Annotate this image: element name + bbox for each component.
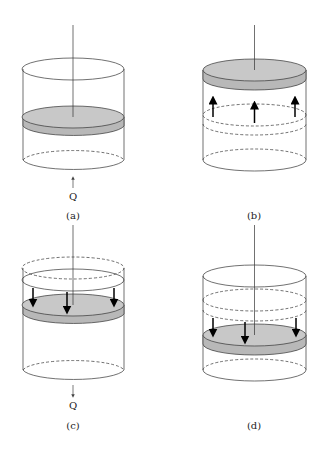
heat-label-c: Q bbox=[69, 400, 77, 411]
piston-cylinder-diagram bbox=[0, 0, 327, 449]
panel-label-b: (b) bbox=[247, 210, 261, 221]
panel-a bbox=[22, 25, 124, 188]
heat-label-a: Q bbox=[69, 191, 77, 202]
panel-label-c: (c) bbox=[66, 420, 79, 431]
panel-d bbox=[203, 225, 306, 381]
panel-label-a: (a) bbox=[66, 210, 80, 221]
panel-b bbox=[203, 25, 306, 171]
panel-label-d: (d) bbox=[247, 420, 261, 431]
panel-c bbox=[22, 225, 124, 396]
